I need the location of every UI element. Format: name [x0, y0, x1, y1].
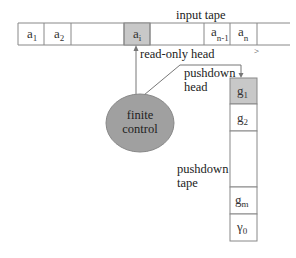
pushdown-head-label-1: pushdown: [184, 66, 236, 80]
input-tape: a1 a2 ai an-1 an: [18, 23, 290, 45]
input-cell-an: an: [238, 24, 249, 43]
finite-control-label-1: finite: [127, 108, 154, 122]
input-cell-a2: a2: [54, 26, 64, 43]
pushdown-tape-label-1: pushdown: [177, 162, 229, 176]
pushdown-head-label-2: head: [184, 80, 208, 94]
read-only-head-arrow: [134, 45, 139, 95]
finite-control-label-2: control: [122, 122, 158, 136]
input-cell-a1: a1: [27, 26, 37, 43]
input-cell-an-1: an-1: [211, 24, 229, 43]
finite-control: finite control: [106, 94, 174, 152]
pushdown-automaton-diagram: input tape a1 a2 ai an-1 an > read-only …: [0, 0, 296, 258]
pushdown-tape: g1 g2 gm γ0: [230, 78, 257, 241]
read-only-head-label: read-only head: [140, 47, 215, 61]
pushdown-tape-label-2: tape: [177, 176, 198, 190]
tape-direction-marker: >: [254, 46, 259, 56]
input-tape-label: input tape: [176, 8, 226, 22]
